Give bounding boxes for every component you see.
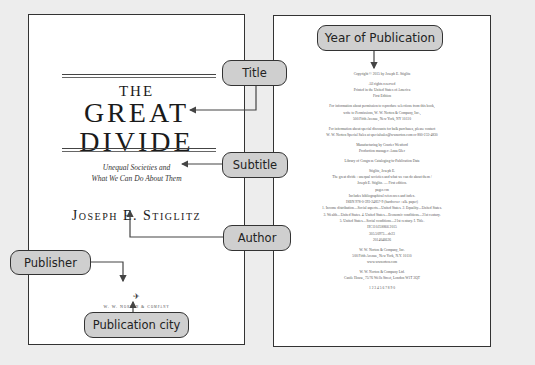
copyright-line: write to Permissions, W. W. Norton & Com… — [274, 111, 490, 116]
copyright-line: 305.50973—dc23 — [274, 232, 490, 237]
book-subtitle: Unequal Societies and What We Can Do Abo… — [29, 162, 244, 184]
copyright-line: W. W. Norton & Company Ltd. — [274, 270, 490, 275]
copyright-line: Manufacturing by Courier Westford — [274, 143, 490, 148]
callout-publication-city: Publication city — [84, 312, 189, 338]
copyright-line: W. W. Norton Special Sales at specialsal… — [274, 133, 490, 138]
copyright-line: For information about permission to repr… — [274, 104, 490, 109]
publisher-name: W. W. Norton & Company — [29, 304, 244, 309]
copyright-line: Stiglitz, Joseph E. — [274, 169, 490, 174]
copyright-line: www.wwnorton.com — [274, 260, 490, 265]
callout-author: Author — [223, 225, 291, 251]
copyright-line: 3. Wealth—United States. 4. United State… — [274, 213, 490, 218]
copyright-line: For information about special discounts … — [274, 127, 490, 132]
copyright-line: Copyright © 2015 by Joseph E. Stiglitz — [274, 72, 490, 77]
copyright-line: Includes bibliographical references and … — [274, 194, 490, 199]
copyright-line: 1. Income distribution—Social aspects—Un… — [274, 206, 490, 211]
copyright-line: pages cm — [274, 188, 490, 193]
copyright-line: Joseph E. Stiglitz. — First edition. — [274, 181, 490, 186]
subtitle-line2: What We Can Do About Them — [29, 173, 244, 184]
title-page: THE GREAT DIVIDE Unequal Societies and W… — [28, 14, 245, 345]
copyright-line: 2014046626 — [274, 238, 490, 243]
callout-title: Title — [222, 60, 287, 86]
copyright-line: 500 Fifth Avenue, New York, NY 10110 — [274, 117, 490, 122]
copyright-line: ISBN 978-0-393-24857-9 (hardcover : alk.… — [274, 200, 490, 205]
copyright-page: Copyright © 2015 by Joseph E. StiglitzAl… — [273, 15, 491, 347]
copyright-line: Library of Congress Cataloging-in-Public… — [274, 159, 490, 164]
copyright-line: The great divide : unequal societies and… — [274, 175, 490, 180]
copyright-line: Castle House, 75/76 Wells Street, London… — [274, 276, 490, 281]
copyright-line: All rights reserved — [274, 82, 490, 87]
copyright-line: 500 Fifth Avenue, New York, N.Y. 10110 — [274, 254, 490, 259]
title-rule-top — [62, 74, 216, 78]
copyright-line: Production manager: Anna Oler — [274, 149, 490, 154]
callout-publisher: Publisher — [10, 250, 91, 275]
copyright-line: W. W. Norton & Company, Inc. — [274, 248, 490, 253]
copyright-line: 1 2 3 4 5 6 7 8 9 0 — [274, 286, 490, 291]
title-rule-bottom — [62, 148, 216, 152]
book-title-line2: GREAT — [29, 99, 244, 127]
copyright-line: Printed in the United States of America — [274, 88, 490, 93]
copyright-line: HC110.I5S866 2015 — [274, 225, 490, 230]
callout-year-of-publication: Year of Publication — [317, 25, 443, 51]
publisher-logo-icon: ✈ — [29, 292, 244, 301]
copyright-line: 5. United States—Social conditions—21st … — [274, 219, 490, 224]
callout-subtitle: Subtitle — [222, 152, 288, 178]
subtitle-line1: Unequal Societies and — [29, 162, 244, 173]
book-author: Joseph E. Stiglitz — [29, 208, 244, 224]
copyright-line: First Edition — [274, 94, 490, 99]
